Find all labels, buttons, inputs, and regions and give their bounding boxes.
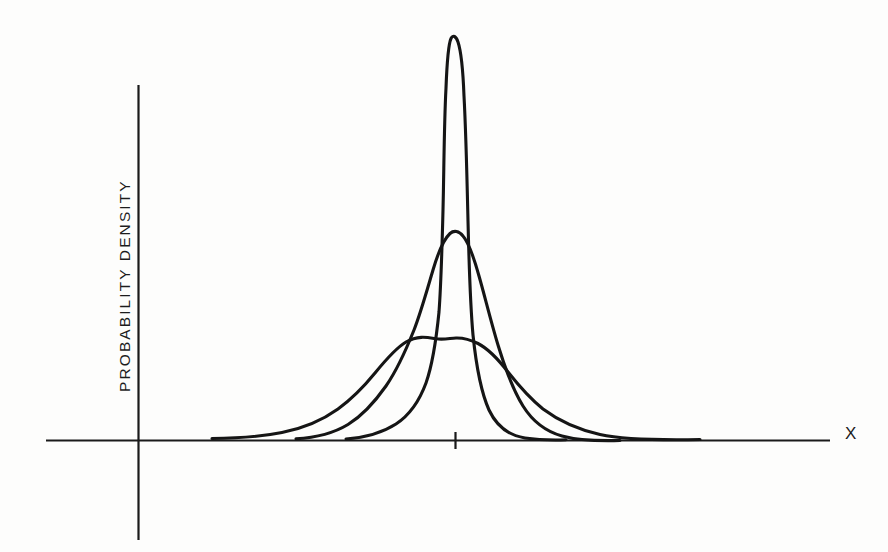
probability-density-figure: PROBABILITY DENSITY X	[0, 0, 888, 552]
x-axis-label: X	[845, 424, 856, 444]
y-axis-label: PROBABILITY DENSITY	[116, 179, 134, 392]
density-curve-narrow	[346, 36, 566, 440]
density-curve-wide	[212, 337, 700, 440]
density-curve-medium	[296, 231, 620, 440]
